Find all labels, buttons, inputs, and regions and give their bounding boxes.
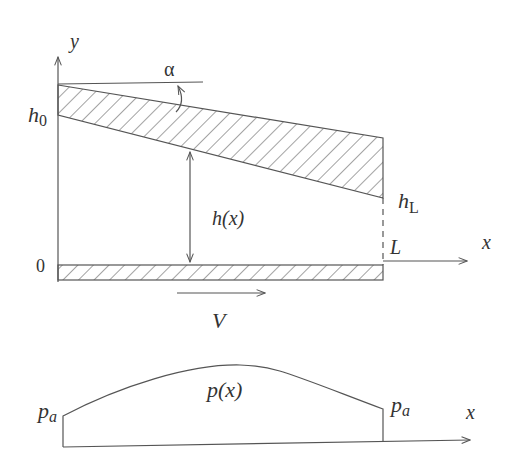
y-axis-label: y [68,30,79,53]
length-label: L [389,236,401,258]
slider-bearing-diagram: y α h0 hL h(x) 0 L x V p(x) pa pa x [0,0,516,469]
gap-height-label: h(x) [212,207,245,230]
moving-bottom-plate [58,265,383,280]
pressure-label: p(x) [205,377,242,402]
left-ambient-pressure-label: pa [36,398,57,425]
hL-label: hL [398,188,419,216]
x-axis-bottom-label: x [465,401,475,423]
right-ambient-pressure-label: pa [389,392,410,419]
inclined-slider-plate [58,85,383,198]
angle-reference-line [58,82,203,84]
velocity-label: V [212,308,228,333]
origin-label: 0 [36,256,45,276]
x-axis-top-label: x [481,231,491,253]
angle-label: α [164,58,175,80]
h0-label: h0 [28,102,47,129]
x-axis-bottom [63,440,470,447]
